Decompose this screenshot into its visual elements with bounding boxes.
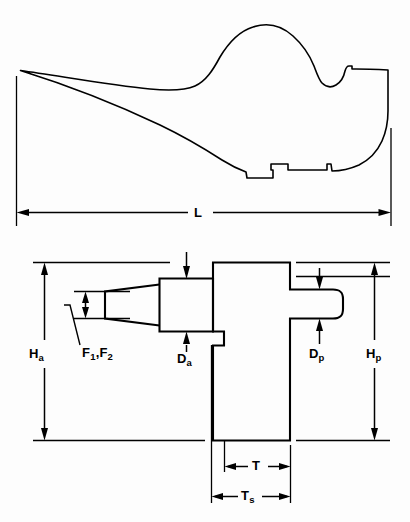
dimension-label-L: L xyxy=(194,206,202,219)
horn-neck-block xyxy=(160,279,214,332)
dimension-label-Dp: Dp xyxy=(309,347,325,360)
arrowhead-down xyxy=(41,428,48,441)
dimension-label-Da: Da xyxy=(177,352,192,365)
arrowhead-down xyxy=(82,307,89,319)
dimension-label-F1-F2: F1,F2 xyxy=(82,346,113,359)
dimension-label-Hp: Hp xyxy=(366,347,382,360)
arrowhead-up xyxy=(183,332,190,345)
arrowhead-down xyxy=(316,277,323,290)
side-profile-outline xyxy=(21,25,389,178)
arrowhead-left xyxy=(212,493,224,500)
arrowhead-right xyxy=(279,493,291,500)
arrowhead-right xyxy=(279,463,291,470)
arrowhead-left xyxy=(17,209,30,216)
dimension-Da xyxy=(183,252,190,352)
dimension-label-Ha: Ha xyxy=(29,347,44,360)
dimension-label-T: T xyxy=(252,459,260,472)
arrowhead-down xyxy=(371,428,378,441)
diagram-canvas: L Ha Hp Da Dp F1,F2 T Ts xyxy=(0,0,410,522)
arrowhead-right xyxy=(379,209,392,216)
arrowhead-left xyxy=(225,463,237,470)
arrowhead-down xyxy=(183,266,190,279)
dimension-L-extension-lines xyxy=(17,76,392,226)
arrowhead-up xyxy=(41,263,48,276)
arrowhead-up xyxy=(82,292,89,304)
arrowhead-up xyxy=(316,319,323,332)
dimension-Ts xyxy=(212,345,291,503)
tapered-horn-outline xyxy=(105,285,160,326)
dimension-F1-F2 xyxy=(64,292,130,346)
dimension-label-Ts: Ts xyxy=(241,489,255,502)
dimension-L-line xyxy=(17,209,392,216)
arrowhead-up xyxy=(371,263,378,276)
